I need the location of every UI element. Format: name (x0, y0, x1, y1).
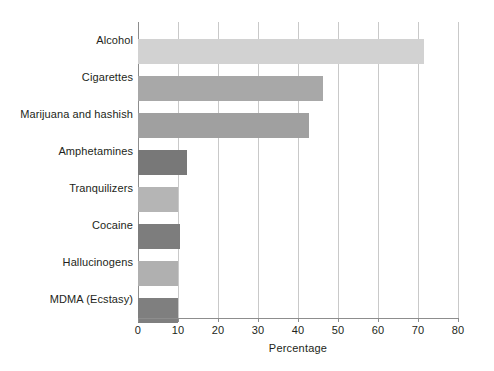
category-label-alcohol: Alcohol (5, 34, 133, 46)
tick-label-20: 20 (198, 324, 238, 336)
gridline-80 (458, 22, 459, 318)
bar-row (138, 70, 458, 107)
tick-mark-30 (258, 318, 259, 322)
tick-label-50: 50 (318, 324, 358, 336)
tick-mark-40 (298, 318, 299, 322)
bar-row (138, 255, 458, 292)
category-label-marijuana-and-hashish: Marijuana and hashish (5, 108, 133, 120)
bar-series (138, 22, 458, 318)
bar-cocaine (138, 224, 180, 249)
bar-chart-figure: Alcohol Cigarettes Marijuana and hashish… (0, 0, 494, 371)
tick-mark-50 (338, 318, 339, 322)
bar-alcohol (138, 39, 424, 64)
tick-label-70: 70 (398, 324, 438, 336)
tick-label-10: 10 (158, 324, 198, 336)
bar-mdma-ecstasy (138, 298, 178, 323)
bar-row (138, 144, 458, 181)
category-label-cigarettes: Cigarettes (5, 71, 133, 83)
plot-area (138, 22, 458, 318)
tick-mark-20 (218, 318, 219, 322)
category-label-amphetamines: Amphetamines (5, 145, 133, 157)
bar-row (138, 218, 458, 255)
tick-label-80: 80 (438, 324, 478, 336)
bar-amphetamines (138, 150, 187, 175)
bar-cigarettes (138, 76, 323, 101)
bar-tranquilizers (138, 187, 178, 212)
tick-label-0: 0 (118, 324, 158, 336)
tick-label-60: 60 (358, 324, 398, 336)
bar-marijuana-and-hashish (138, 113, 309, 138)
bar-row (138, 33, 458, 70)
tick-label-30: 30 (238, 324, 278, 336)
category-axis-labels: Alcohol Cigarettes Marijuana and hashish… (0, 22, 133, 318)
category-label-tranquilizers: Tranquilizers (5, 182, 133, 194)
category-label-mdma-ecstasy: MDMA (Ecstasy) (5, 293, 133, 305)
tick-mark-60 (378, 318, 379, 322)
category-label-hallucinogens: Hallucinogens (5, 256, 133, 268)
tick-mark-10 (178, 318, 179, 322)
tick-label-40: 40 (278, 324, 318, 336)
tick-mark-70 (418, 318, 419, 322)
bar-hallucinogens (138, 261, 178, 286)
x-axis-title: Percentage (138, 342, 458, 354)
tick-mark-80 (458, 318, 459, 322)
bar-row (138, 181, 458, 218)
bar-row (138, 107, 458, 144)
category-label-cocaine: Cocaine (5, 219, 133, 231)
tick-mark-0 (138, 318, 139, 322)
